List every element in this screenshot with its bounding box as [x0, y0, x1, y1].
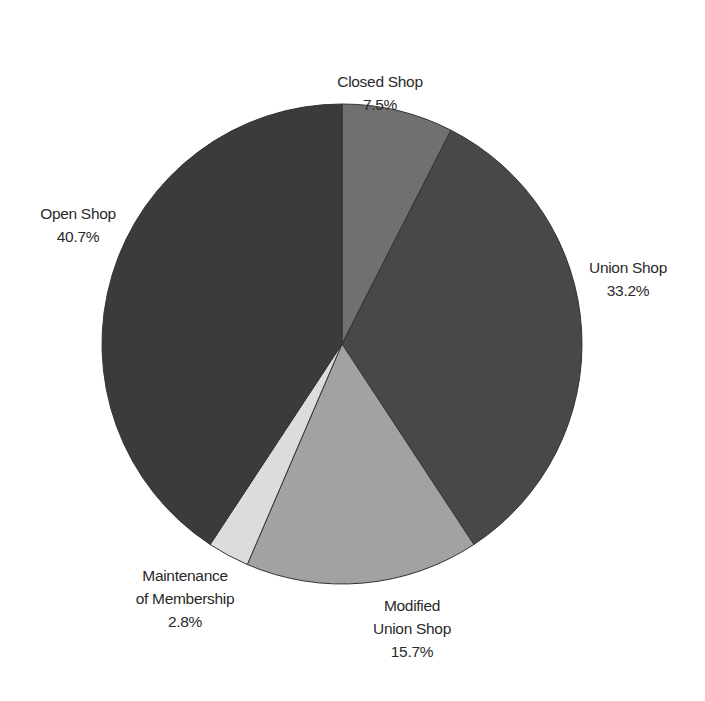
slice-label-maintenance-of-membership: Maintenanceof Membership2.8% — [136, 564, 235, 633]
slice-label-modified-union-shop: ModifiedUnion Shop15.7% — [373, 594, 451, 663]
slice-label-open-shop: Open Shop40.7% — [40, 202, 116, 248]
slice-label-union-shop: Union Shop33.2% — [589, 256, 667, 302]
slice-label-closed-shop: Closed Shop7.5% — [337, 70, 422, 116]
